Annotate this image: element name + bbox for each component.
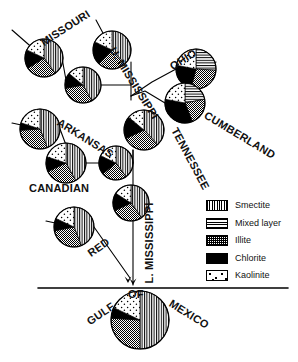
legend-label-chlorite: Chlorite bbox=[235, 254, 266, 263]
legend-item-smectite: Smectite bbox=[206, 199, 298, 212]
diagram-svg bbox=[0, 0, 298, 362]
legend-label-mixed-layer: Mixed layer bbox=[235, 219, 281, 228]
legend-label-kaolinite: Kaolinite bbox=[235, 271, 270, 280]
label-of: OF bbox=[128, 289, 144, 300]
pie-slice-smectite bbox=[140, 291, 169, 349]
pie-slice-illite bbox=[111, 318, 140, 349]
label-canadian: CANADIAN bbox=[29, 183, 89, 194]
pie-cumberland bbox=[165, 83, 205, 123]
illite-swatch-icon bbox=[206, 235, 228, 246]
chlorite-swatch-icon bbox=[206, 253, 228, 264]
figure-canvas: MISSOURIU. MISSISSIPPIOHIOCUMBERLANDTENN… bbox=[0, 0, 298, 362]
mixed-layer-swatch-icon bbox=[206, 218, 228, 229]
pie-arkansas-upper bbox=[20, 109, 60, 149]
river-line-missouri-to-trunk bbox=[101, 85, 131, 100]
pie-red bbox=[54, 207, 94, 247]
legend-item-illite: Illite bbox=[206, 234, 298, 247]
label-l-mississippi: L. MISSISSIPPI bbox=[144, 202, 155, 283]
kaolinite-swatch-icon bbox=[206, 270, 228, 281]
pie-missouri-lower bbox=[65, 67, 101, 103]
legend-label-illite: Illite bbox=[235, 236, 251, 245]
legend-label-smectite: Smectite bbox=[235, 201, 270, 210]
legend-item-kaolinite: Kaolinite bbox=[206, 269, 298, 282]
legend: Smectite Mixed layer Illite Chlorite Kao… bbox=[206, 199, 298, 287]
pie-arkansas-mid bbox=[46, 143, 86, 183]
legend-item-chlorite: Chlorite bbox=[206, 252, 298, 265]
flow-arrows bbox=[125, 277, 137, 286]
smectite-swatch-icon bbox=[206, 200, 228, 211]
legend-item-mixed-layer: Mixed layer bbox=[206, 217, 298, 230]
